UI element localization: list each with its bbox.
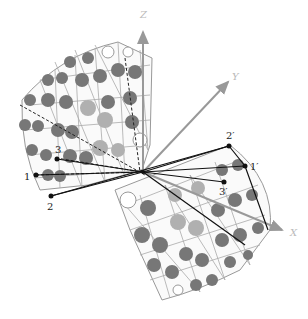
origin bbox=[141, 170, 145, 174]
point-2 bbox=[49, 194, 54, 199]
label-3-prime: 3′ bbox=[219, 186, 228, 197]
point-1-prime bbox=[243, 164, 248, 169]
z-axis-label: Z bbox=[139, 9, 148, 20]
point-3 bbox=[55, 157, 60, 162]
upper-patch bbox=[19, 42, 152, 190]
label-1: 1 bbox=[24, 171, 30, 182]
point-1 bbox=[34, 173, 39, 178]
label-2-prime: 2′ bbox=[226, 130, 235, 141]
diagram-canvas: Z Y X 1 2 3 2′ 1′ 3′ bbox=[0, 0, 308, 319]
point-2-prime bbox=[227, 144, 232, 149]
label-3: 3 bbox=[55, 144, 61, 155]
y-axis-label: Y bbox=[232, 71, 240, 82]
label-2: 2 bbox=[47, 201, 53, 212]
label-1-prime: 1′ bbox=[250, 161, 259, 172]
x-axis-label: X bbox=[289, 227, 298, 238]
point-3-prime bbox=[222, 180, 227, 185]
